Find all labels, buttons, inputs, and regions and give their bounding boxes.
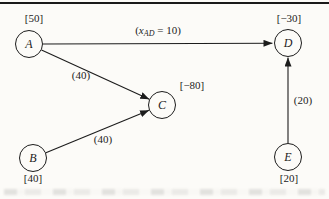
node-B-label: B <box>29 152 36 164</box>
node-C: C <box>148 91 176 119</box>
node-C-label: C <box>158 99 166 111</box>
edge-A-C <box>42 50 150 99</box>
network-flow-diagram: A B C D E [50] [40] [−80] [−30] [20] (xA… <box>0 0 329 199</box>
node-A-label: A <box>25 38 32 50</box>
node-D-label: D <box>284 37 293 49</box>
edge-A-D-label-sub: AD <box>144 29 155 38</box>
node-E-supply: [20] <box>280 173 298 184</box>
edge-A-D <box>43 43 273 44</box>
edge-A-D-label-rest: = 10) <box>154 24 180 36</box>
node-E: E <box>274 143 302 171</box>
node-A-supply: [50] <box>25 13 43 24</box>
edge-E-D-label: (20) <box>294 95 312 106</box>
edge-B-C <box>46 110 149 152</box>
node-D: D <box>274 29 302 57</box>
node-C-supply: [−80] <box>180 80 205 91</box>
node-E-label: E <box>284 151 291 163</box>
edge-A-C-label: (40) <box>72 70 90 81</box>
node-B: B <box>19 144 47 172</box>
edge-B-C-label: (40) <box>94 134 112 145</box>
node-D-supply: [−30] <box>277 13 302 24</box>
node-B-supply: [40] <box>24 173 42 184</box>
edge-A-D-label: (xAD = 10) <box>135 25 181 36</box>
node-A: A <box>15 30 43 58</box>
